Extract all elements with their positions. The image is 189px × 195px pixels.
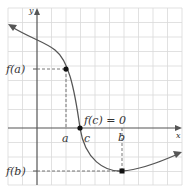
fb-label: f(b) bbox=[5, 165, 26, 178]
a-label: a bbox=[62, 132, 69, 145]
y-axis-label: y bbox=[28, 6, 34, 15]
grid bbox=[8, 8, 182, 185]
ivt-diagram: y x f(a) f(b) f(c) = 0 a c b bbox=[0, 0, 189, 195]
point-b bbox=[120, 169, 125, 174]
c-label: c bbox=[84, 132, 90, 145]
point-c bbox=[77, 125, 82, 130]
fc-label: f(c) = 0 bbox=[83, 114, 126, 127]
x-axis-label: x bbox=[176, 131, 181, 140]
b-label: b bbox=[118, 131, 125, 144]
fa-label: f(a) bbox=[5, 63, 25, 76]
point-a bbox=[63, 66, 68, 71]
curve-left-arrow-icon bbox=[8, 24, 17, 31]
y-axis-arrow-icon bbox=[34, 8, 40, 15]
